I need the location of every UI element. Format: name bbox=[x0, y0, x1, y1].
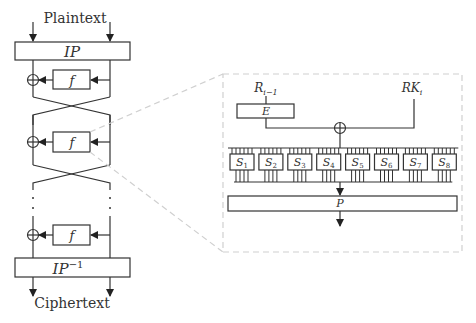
sbox-3: S3 bbox=[288, 148, 312, 182]
sbox-8: S8 bbox=[432, 148, 456, 182]
r-prev-label: Ri−1 bbox=[253, 81, 277, 97]
sbox-1: S1 bbox=[230, 148, 254, 182]
ip-label: IP bbox=[63, 43, 81, 61]
ciphertext-label: Ciphertext bbox=[34, 295, 110, 311]
round-key-label: RKi bbox=[401, 81, 423, 97]
permutation-label: P bbox=[335, 197, 344, 210]
ip-inverse-box: IP−1 bbox=[15, 258, 130, 278]
sbox-row: S1S2S3S4S5S6S7S8 bbox=[228, 148, 458, 182]
sbox-2: S2 bbox=[259, 148, 283, 182]
swap-cross-1 bbox=[33, 97, 110, 125]
sbox-6: S6 bbox=[375, 148, 399, 182]
expansion-box bbox=[237, 96, 335, 128]
sbox-7: S7 bbox=[403, 148, 427, 182]
sbox-5: S5 bbox=[346, 148, 370, 182]
ellipsis-dots bbox=[32, 197, 111, 209]
expansion-label: E bbox=[261, 105, 270, 118]
output-arrows bbox=[33, 277, 110, 296]
swap-cross-2 bbox=[33, 165, 110, 190]
round-key-line bbox=[346, 99, 415, 128]
ip-box: IP bbox=[15, 42, 130, 61]
xor-icon bbox=[335, 123, 346, 134]
sbox-4: S4 bbox=[317, 148, 341, 182]
plaintext-label: Plaintext bbox=[43, 10, 107, 26]
des-diagram: Plaintext IP f f bbox=[0, 0, 476, 323]
